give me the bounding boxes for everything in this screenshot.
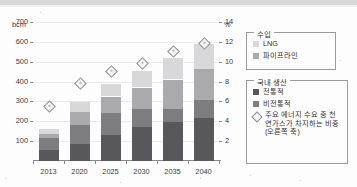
gridline [33, 22, 219, 23]
y2-axis-tick [219, 141, 222, 142]
bar-segment-conventional [163, 122, 183, 161]
y2-axis-tick-label: 6 [225, 97, 249, 105]
y-axis-tick-label: 500 [0, 58, 28, 66]
scan-speckle [340, 60, 341, 61]
y-axis-tick [30, 101, 33, 102]
bar-segment-conventional [70, 144, 90, 161]
x-axis-tick [95, 161, 96, 164]
x-axis-tick [126, 161, 127, 164]
bar-segment-lng [163, 58, 183, 80]
y2-axis-tick-label: 14 [225, 18, 249, 26]
gridline [33, 141, 219, 142]
diamond-marker-icon [251, 111, 262, 122]
plot-area [33, 22, 219, 161]
y-axis-tick [30, 121, 33, 122]
x-axis-tick-label: 2030 [125, 167, 159, 176]
bar-stack[interactable] [39, 22, 59, 161]
scan-speckle [40, 12, 41, 13]
legend-item-gas-share[interactable]: 주요 에너지 수요 중 천연가스가 차지하는 비중(오른쪽 축) [253, 111, 342, 137]
y2-axis-tick [219, 82, 222, 83]
legend-item-label: LNG [263, 40, 278, 49]
x-axis-tick [219, 161, 220, 164]
bar-segment-pipeline [132, 88, 152, 110]
y2-axis-tick-label: 10 [225, 58, 249, 66]
x-axis-tick-label: 2025 [94, 167, 128, 176]
bar-segment-pipeline [194, 69, 214, 101]
bar-stack[interactable] [132, 22, 152, 161]
scan-speckle [120, 182, 121, 183]
scan-speckle [250, 175, 251, 176]
legend-item-unconventional[interactable]: 비전통적 [253, 100, 342, 109]
bar-stack[interactable] [70, 22, 90, 161]
bar-segment-conventional [194, 118, 214, 161]
scan-band-top-light [0, 5, 357, 7]
conventional-swatch [253, 89, 259, 95]
bar-stack[interactable] [163, 22, 183, 161]
legend-domestic-title: 국내 생산 [254, 76, 290, 87]
legend-item-conventional[interactable]: 전통적 [253, 88, 342, 97]
y-axis-tick [30, 22, 33, 23]
gridline [33, 101, 219, 102]
x-axis-tick [188, 161, 189, 164]
y-axis-tick-label: 400 [0, 78, 28, 86]
y-axis-tick-label: 700 [0, 18, 28, 26]
scan-speckle [5, 178, 6, 179]
legend-item-pipeline[interactable]: 파이프라인 [253, 52, 330, 61]
legend-domestic-production: 국내 생산 전통적 비전통적 주요 에너지 수요 중 천연가스가 차지하는 비중… [246, 80, 348, 164]
bar-segment-pipeline [163, 80, 183, 110]
bar-stack[interactable] [101, 22, 121, 161]
legend-item-label: 비전통적 [263, 100, 291, 109]
bar-segment-pipeline [39, 134, 59, 138]
y2-axis-tick-label: 2 [225, 137, 249, 145]
bar-segment-unconventional [70, 125, 90, 144]
bar-segment-conventional [132, 127, 152, 161]
legend-item-label: 주요 에너지 수요 중 천연가스가 차지하는 비중(오른쪽 축) [265, 111, 339, 137]
gridline [33, 121, 219, 122]
unconventional-swatch [253, 101, 259, 107]
bar-segment-conventional [101, 135, 121, 161]
legend-item-lng[interactable]: LNG [253, 40, 330, 49]
y2-axis-tick [219, 42, 222, 43]
x-axis-tick [64, 161, 65, 164]
y2-axis-tick [219, 62, 222, 63]
y2-axis-tick [219, 101, 222, 102]
x-axis-tick-label: 2013 [32, 167, 66, 176]
y-axis-tick-label: 200 [0, 117, 28, 125]
legend-item-label: 전통적 [263, 88, 284, 97]
y-axis-tick-label: 300 [0, 97, 28, 105]
lng-swatch [253, 41, 259, 47]
chart-figure: bcm % 수입 LNG 파이프라인 국내 생산 전통적 [0, 0, 357, 187]
bar-segment-unconventional [101, 113, 121, 135]
legend-import: 수입 LNG 파이프라인 [246, 32, 336, 70]
bar-segment-lng [39, 129, 59, 134]
y-axis-tick [30, 42, 33, 43]
bar-segment-unconventional [163, 109, 183, 122]
bar-segment-lng [132, 71, 152, 88]
y2-axis-tick-label: 12 [225, 38, 249, 46]
bar-segment-lng [70, 102, 90, 112]
x-axis-tick [157, 161, 158, 164]
scan-speckle [300, 180, 301, 181]
bar-segment-lng [101, 84, 121, 97]
x-axis-tick-label: 2035 [156, 167, 190, 176]
legend-import-title: 수입 [254, 28, 274, 39]
gridline [33, 42, 219, 43]
pipeline-swatch [253, 53, 259, 59]
bar-segment-unconventional [39, 138, 59, 150]
y-axis-tick [30, 141, 33, 142]
y2-axis-tick [219, 22, 222, 23]
legend-item-label: 파이프라인 [263, 52, 298, 61]
gridline [33, 62, 219, 63]
bar-segment-pipeline [101, 97, 121, 114]
y2-axis-tick [219, 121, 222, 122]
y2-axis-tick-label: 8 [225, 78, 249, 86]
y-axis-tick [30, 82, 33, 83]
x-axis-tick-label: 2040 [187, 167, 221, 176]
x-axis-tick-label: 2020 [63, 167, 97, 176]
bar-segment-unconventional [132, 109, 152, 127]
scan-speckle [200, 178, 201, 179]
gridline [33, 82, 219, 83]
bar-segment-pipeline [70, 112, 90, 125]
y-axis-tick [30, 62, 33, 63]
bar-segment-unconventional [194, 100, 214, 118]
